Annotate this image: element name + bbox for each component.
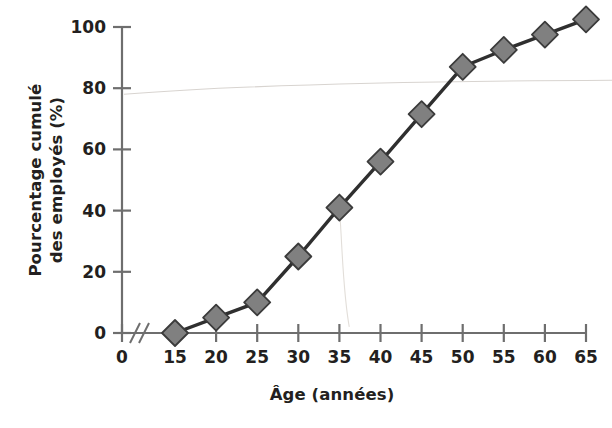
x-tick-label: 50 bbox=[451, 347, 475, 367]
chart-container: Pourcentage cumulé des employés (%) 0152… bbox=[0, 0, 612, 428]
data-point-marker bbox=[203, 305, 229, 331]
data-point-marker bbox=[573, 6, 599, 32]
plot-area: 01520253035404550556065020406080100 bbox=[0, 0, 612, 428]
x-tick-label: 20 bbox=[204, 347, 228, 367]
tick-labels: 01520253035404550556065020406080100 bbox=[71, 17, 598, 367]
x-tick-label: 55 bbox=[492, 347, 516, 367]
y-tick-label: 0 bbox=[94, 323, 106, 343]
data-point-marker bbox=[532, 22, 558, 48]
axes bbox=[113, 27, 587, 342]
x-tick-label: 35 bbox=[328, 347, 352, 367]
scan-artifact-line bbox=[124, 80, 612, 327]
y-tick-label: 60 bbox=[82, 139, 106, 159]
x-tick-label: 60 bbox=[533, 347, 557, 367]
x-tick-label: 15 bbox=[163, 347, 187, 367]
x-tick-label: 40 bbox=[369, 347, 393, 367]
x-axis-label-text: Âge (années) bbox=[218, 385, 395, 404]
x-tick-label: 25 bbox=[245, 347, 269, 367]
y-tick-label: 80 bbox=[82, 78, 106, 98]
x-axis-label: Âge (années) bbox=[0, 385, 612, 404]
data-line bbox=[175, 19, 586, 333]
x-tick-label: 0 bbox=[116, 347, 128, 367]
data-point-marker bbox=[491, 37, 517, 63]
x-tick-label: 30 bbox=[286, 347, 310, 367]
y-tick-label: 100 bbox=[71, 17, 107, 37]
x-tick-label: 65 bbox=[574, 347, 598, 367]
y-tick-label: 40 bbox=[82, 201, 106, 221]
data-markers bbox=[162, 6, 599, 346]
x-tick-label: 45 bbox=[410, 347, 434, 367]
data-point-marker bbox=[162, 320, 188, 346]
y-tick-label: 20 bbox=[82, 262, 106, 282]
